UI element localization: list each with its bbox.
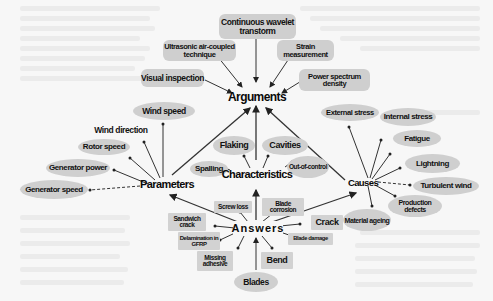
node-wind-direction: Wind direction: [89, 122, 153, 138]
node-crack: Crack: [311, 215, 343, 230]
node-wind-speed: Wind speed: [133, 102, 195, 120]
node-lightning: Lightning: [405, 154, 460, 173]
node-strain: Strain measurement: [277, 40, 334, 61]
node-flaking: Flaking: [213, 136, 255, 155]
node-blade-damage: Blade damage: [288, 233, 333, 245]
hub-causes: Causes: [343, 176, 383, 190]
node-screw-loss: Screw loss: [214, 201, 252, 213]
node-continuous-wavelet: Continuous wavelet transtorm: [219, 14, 296, 39]
node-generator-speed: Generator speed: [20, 180, 88, 199]
node-external-stress: External stress: [321, 104, 379, 121]
node-visual-inspection: Visual inspection: [141, 69, 204, 87]
node-power-spectrum: Power spectrum density: [299, 69, 370, 91]
node-turbulent-wind: Turbulent wind: [413, 177, 479, 195]
node-blade-corrosion: Blade corrosion: [262, 198, 304, 216]
node-internal-stress: Internal stress: [380, 108, 436, 126]
node-out-of-control: Out-of-control: [287, 156, 329, 178]
node-blades: Blades: [234, 272, 278, 292]
hub-answers: Answers: [233, 221, 283, 236]
hub-parameters: Parameters: [140, 176, 194, 192]
hub-arguments: Arguments: [226, 89, 288, 105]
node-missing-adhesive: Missing adhesive: [197, 251, 233, 271]
node-bend: Bend: [261, 252, 293, 269]
node-material-ageing: Material ageing: [343, 209, 391, 231]
node-fatigue: Fatigue: [393, 130, 441, 147]
node-delamination: Delamination in GFRP: [178, 232, 220, 250]
node-ultrasonic: Ultrasonic air-coupled technique: [163, 40, 236, 61]
node-rotor-speed: Rotor speed: [78, 139, 130, 155]
node-generator-power: Generator power: [46, 159, 110, 177]
node-cavities: Cavities: [262, 136, 308, 155]
hub-characteristics: Characteristics: [224, 166, 290, 182]
node-production-defects: Production defects: [388, 195, 442, 217]
node-sandwich-crack: Sandwich crack: [168, 213, 206, 231]
